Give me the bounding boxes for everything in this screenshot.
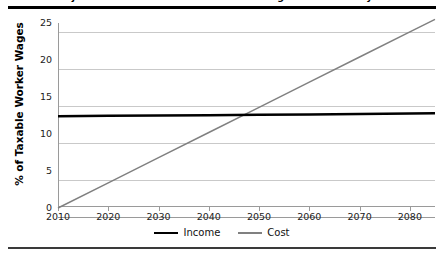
chart-legend: Income Cost <box>0 228 444 238</box>
axes: 20102020203020402050206020702080 <box>58 23 435 207</box>
y-axis-label: % of Taxable Worker Wages <box>13 9 25 199</box>
y-tick-label: 25 <box>28 18 52 28</box>
chart-figure: Projected Income and Cost as a Percentag… <box>0 0 444 256</box>
legend-item-cost[interactable]: Cost <box>238 228 289 238</box>
x-tick-label: 2010 <box>38 211 78 222</box>
plot-area: % of Taxable Worker Wages 0510152025 201… <box>0 14 444 214</box>
x-tick-label: 2060 <box>289 211 329 222</box>
y-tick-label: 20 <box>28 55 52 65</box>
legend-label-cost: Cost <box>267 228 289 238</box>
x-tick-label: 2080 <box>390 211 430 222</box>
x-tick-label: 2070 <box>340 211 380 222</box>
y-tick-label: 5 <box>28 166 52 176</box>
x-tick-label: 2030 <box>139 211 179 222</box>
x-tick-label: 2040 <box>189 211 229 222</box>
x-tick-label: 2050 <box>239 211 279 222</box>
y-axis-ticks: 0510152025 <box>26 14 52 214</box>
top-divider <box>8 6 436 9</box>
legend-swatch-income-icon <box>154 232 178 235</box>
y-tick-label: 15 <box>28 92 52 102</box>
page-title: Projected Income and Cost as a Percentag… <box>53 0 390 2</box>
series-layer <box>58 23 435 208</box>
legend-label-income: Income <box>183 228 220 238</box>
series-line-income <box>58 113 435 116</box>
bottom-divider <box>8 247 436 249</box>
x-tick-label: 2020 <box>88 211 128 222</box>
y-tick-label: 10 <box>28 129 52 139</box>
legend-swatch-cost-icon <box>238 232 262 234</box>
legend-item-income[interactable]: Income <box>154 228 220 238</box>
